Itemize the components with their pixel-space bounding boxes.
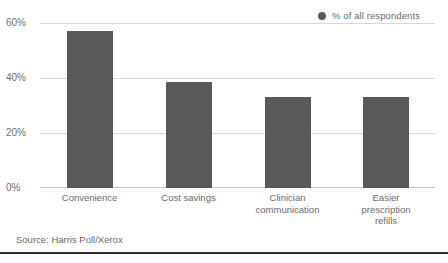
x-label-line: refills bbox=[337, 215, 435, 227]
y-tick-label-40: 40% bbox=[6, 73, 40, 83]
source-note: Source: Harris Poll/Xerox bbox=[16, 235, 123, 245]
y-tick-label-0: 0% bbox=[6, 183, 40, 193]
bottom-divider bbox=[0, 252, 448, 254]
bar-slot-clinician-communication bbox=[238, 23, 337, 188]
x-label-line: prescription bbox=[337, 204, 435, 216]
bar-slot-convenience bbox=[40, 23, 139, 188]
y-tick-label-60: 60% bbox=[6, 18, 40, 28]
chart-legend: % of all respondents bbox=[318, 11, 420, 21]
top-edge-clipped-text bbox=[0, 0, 448, 6]
plot-area bbox=[40, 23, 435, 188]
x-label-line: Cost savings bbox=[139, 192, 238, 204]
x-label-line: Easier bbox=[337, 192, 435, 204]
bar-slot-cost-savings bbox=[139, 23, 238, 188]
x-label-convenience: Convenience bbox=[40, 192, 139, 204]
x-label-line: Clinician bbox=[238, 192, 337, 204]
bar-group bbox=[40, 23, 435, 188]
bar-convenience bbox=[67, 31, 113, 188]
y-tick-label-20: 20% bbox=[6, 128, 40, 138]
x-label-line: Convenience bbox=[40, 192, 139, 204]
x-axis-labels: Convenience Cost savings Clinician commu… bbox=[40, 192, 435, 236]
x-label-line: communication bbox=[238, 204, 337, 216]
legend-label: % of all respondents bbox=[332, 11, 420, 21]
x-label-easier-prescription-refills: Easier prescription refills bbox=[337, 192, 435, 227]
legend-dot-icon bbox=[318, 12, 326, 20]
chart-figure: % of all respondents 60% 40% 20% 0% bbox=[0, 0, 448, 263]
y-axis-ticks: 60% 40% 20% 0% bbox=[6, 23, 40, 188]
bar-easier-prescription-refills bbox=[363, 97, 409, 188]
bar-slot-easier-prescription-refills bbox=[337, 23, 435, 188]
x-label-clinician-communication: Clinician communication bbox=[238, 192, 337, 215]
x-label-cost-savings: Cost savings bbox=[139, 192, 238, 204]
bar-cost-savings bbox=[166, 82, 212, 188]
bar-clinician-communication bbox=[265, 97, 311, 188]
